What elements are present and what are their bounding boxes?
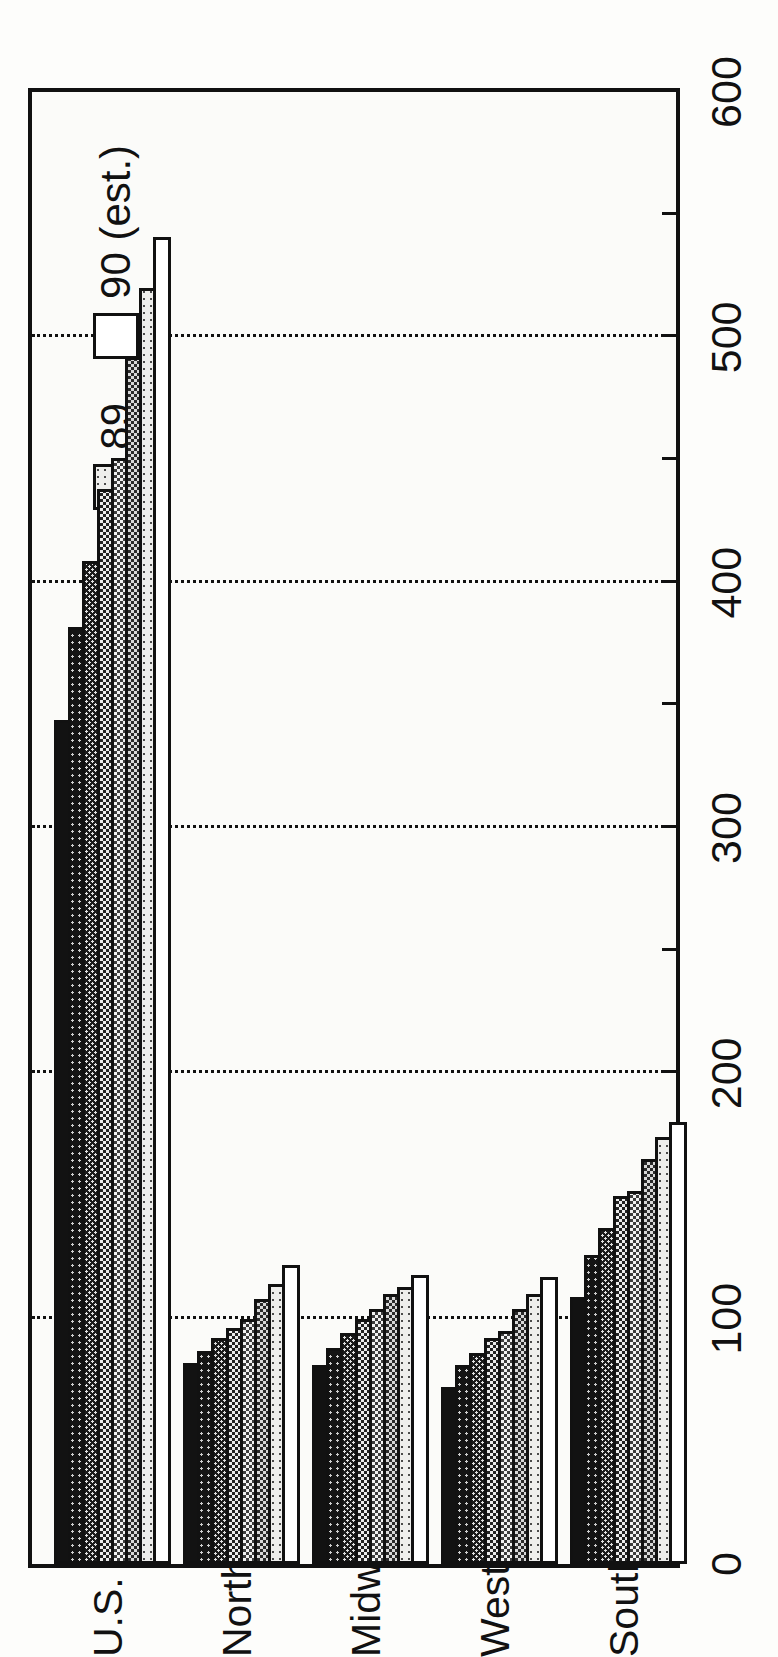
bar <box>441 1387 458 1564</box>
category-label: South <box>601 1577 648 1657</box>
value-axis-tick-label: 200 <box>702 1037 751 1109</box>
legend-item-90-est-: 90 (est.) <box>92 145 140 359</box>
category-label: Northeast <box>214 1577 261 1657</box>
bar-group <box>441 92 559 1564</box>
category-label: Midwest <box>343 1577 390 1657</box>
bar-group <box>183 92 301 1564</box>
category-label: West <box>472 1577 519 1657</box>
value-axis-tick-label: 300 <box>702 792 751 864</box>
bar <box>54 720 71 1564</box>
value-axis-tick-label: 500 <box>702 301 751 373</box>
value-axis-tick-label: 100 <box>702 1283 751 1355</box>
bar <box>183 1363 200 1564</box>
legend-label: 90 (est.) <box>92 145 140 299</box>
value-axis-tick-label: 400 <box>702 547 751 619</box>
bar <box>570 1297 587 1564</box>
value-axis-tick-label: 600 <box>702 56 751 128</box>
bar <box>312 1365 329 1564</box>
bar-group <box>570 92 688 1564</box>
value-axis-tick-label: 0 <box>702 1552 751 1576</box>
category-label: U.S. Total <box>85 1577 132 1657</box>
legend-swatch <box>93 313 139 359</box>
plot-area: 8384858687888990 (est.) <box>28 88 680 1568</box>
bar-group <box>312 92 430 1564</box>
